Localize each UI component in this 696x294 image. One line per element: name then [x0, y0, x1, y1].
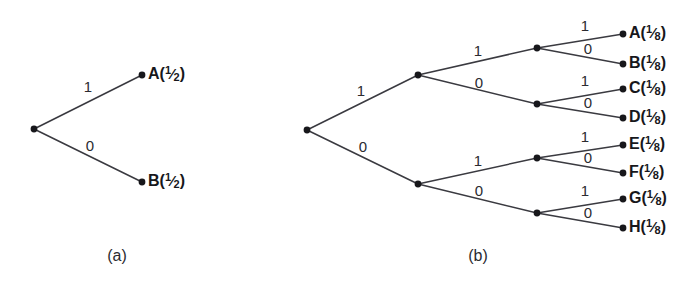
tree-edge-n2-ab-to-leaf-a	[537, 34, 623, 48]
edge-label-bit-1: 1	[581, 128, 589, 145]
panel-caption-panel-b: (b)	[468, 247, 488, 264]
tree-node-leaf-d	[620, 115, 627, 122]
tree-node-root	[304, 127, 311, 134]
tree-node-n1-upper	[415, 72, 422, 79]
tree-node-leaf-g	[620, 196, 627, 203]
tree-edge-n2-ef-to-leaf-f	[537, 158, 623, 173]
leaf-label-c: C(1⁄8)	[629, 77, 666, 97]
edge-label-bit-1: 1	[474, 152, 482, 169]
tree-node-leaf-h	[620, 225, 627, 232]
tree-edge-n2-gh-to-leaf-h	[537, 213, 623, 228]
leaf-label-b: B(1⁄2)	[148, 170, 185, 190]
edge-label-bit-0: 0	[359, 138, 367, 155]
tree-edge-n2-ef-to-leaf-e	[537, 145, 623, 158]
tree-diagram-canvas: 10A(1⁄2)B(1⁄2)(a)10101010101010A(1⁄8)B(1…	[0, 0, 696, 294]
tree-node-leaf-a	[620, 31, 627, 38]
edge-label-bit-0: 0	[584, 149, 592, 166]
tree-node-leaf-a	[139, 72, 146, 79]
edge-label-bit-0: 0	[584, 94, 592, 111]
tree-node-n2-ab	[534, 45, 541, 52]
leaf-label-e: E(1⁄8)	[629, 133, 665, 153]
leaf-label-f: F(1⁄8)	[629, 161, 664, 181]
tree-edge-n2-gh-to-leaf-g	[537, 199, 623, 213]
leaf-label-a: A(1⁄2)	[148, 63, 185, 83]
edge-label-bit-1: 1	[474, 42, 482, 59]
leaf-label-h: H(1⁄8)	[629, 216, 666, 236]
tree-node-n1-lower	[415, 181, 422, 188]
tree-edge-n2-ab-to-leaf-b	[537, 48, 623, 64]
tree-node-leaf-b	[139, 179, 146, 186]
tree-node-leaf-e	[620, 142, 627, 149]
edge-label-bit-1: 1	[581, 17, 589, 34]
edge-label-bit-1: 1	[581, 182, 589, 199]
panel-a: 10A(1⁄2)B(1⁄2)(a)	[31, 63, 185, 264]
binary-code-tree-figure: 10A(1⁄2)B(1⁄2)(a)10101010101010A(1⁄8)B(1…	[0, 0, 696, 294]
leaf-label-g: G(1⁄8)	[629, 187, 667, 207]
edge-label-bit-0: 0	[475, 182, 483, 199]
edge-label-bit-0: 0	[475, 74, 483, 91]
edge-label-bit-0: 0	[584, 40, 592, 57]
edge-label-bit-0: 0	[584, 204, 592, 221]
panel-caption-panel-a: (a)	[107, 247, 127, 264]
tree-node-leaf-f	[620, 170, 627, 177]
tree-node-n2-gh	[534, 210, 541, 217]
tree-node-leaf-c	[620, 86, 627, 93]
tree-node-leaf-b	[620, 61, 627, 68]
leaf-label-d: D(1⁄8)	[629, 106, 666, 126]
tree-edge-n2-cd-to-leaf-d	[537, 104, 623, 118]
tree-node-n2-cd	[534, 101, 541, 108]
tree-node-n2-ef	[534, 155, 541, 162]
edge-label-bit-1: 1	[581, 72, 589, 89]
panel-b: 10101010101010A(1⁄8)B(1⁄8)C(1⁄8)D(1⁄8)E(…	[304, 17, 667, 264]
leaf-label-a: A(1⁄8)	[629, 22, 666, 42]
tree-node-root	[31, 126, 38, 133]
edge-label-bit-0: 0	[86, 137, 94, 154]
leaf-label-b: B(1⁄8)	[629, 52, 666, 72]
tree-edge-n2-cd-to-leaf-c	[537, 89, 623, 104]
edge-label-bit-1: 1	[84, 78, 92, 95]
edge-label-bit-1: 1	[357, 82, 365, 99]
